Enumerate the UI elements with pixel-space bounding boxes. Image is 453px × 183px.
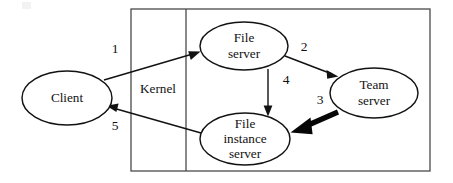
edge-4-arrowhead [264,105,273,116]
file-instance-server-label-line-1: File [235,116,256,131]
team-server-label-line-1: Team [359,77,389,92]
edge-2-file-server-to-team-server: 2 [285,39,338,79]
edge-2-line [285,56,332,74]
edge-5-file-instance-server-to-client: 5 [107,103,202,133]
edge-2-label: 2 [301,39,308,54]
edge-3-label: 3 [317,92,324,107]
edge-1-line [104,53,196,80]
node-file-server[interactable]: File server [200,22,288,70]
diagram-svg: Kernel 1 2 3 4 5 [0,0,453,183]
node-file-instance-server[interactable]: File instance server [200,113,290,165]
file-instance-server-label-line-2: instance [223,131,266,146]
client-label: Client [51,90,84,105]
edge-5-label: 5 [112,118,119,133]
edge-5-line [113,108,201,133]
file-instance-server-label-line-3: server [229,146,262,161]
edge-1-label: 1 [112,41,119,56]
file-server-label-line-2: server [228,46,261,61]
file-server-label-line-1: File [234,30,255,45]
team-server-label-line-2: server [358,93,391,108]
node-client[interactable]: Client [22,71,112,125]
scan-artifact [22,2,31,9]
edge-2-arrowhead [327,70,339,79]
node-team-server[interactable]: Team server [330,68,418,118]
edge-4-file-server-to-file-instance-server: 4 [264,69,290,117]
edge-1-arrowhead [188,51,200,60]
edge-4-label: 4 [283,72,290,87]
edge-3-arrowhead [291,118,313,135]
diagram-canvas: Kernel 1 2 3 4 5 [0,0,453,183]
kernel-label: Kernel [140,81,176,96]
